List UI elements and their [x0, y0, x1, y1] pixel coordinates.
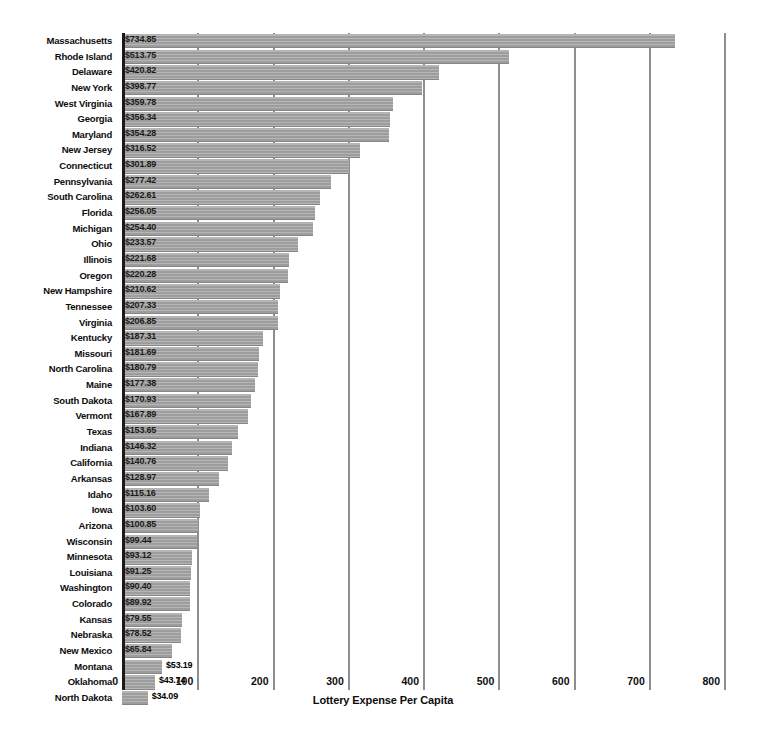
bar	[122, 34, 675, 48]
bar-row: $277.42	[122, 174, 724, 190]
category-label: Connecticut	[0, 158, 116, 174]
category-label: Minnesota	[0, 549, 116, 565]
bar-value-label: $180.79	[125, 361, 156, 374]
category-label: South Carolina	[0, 189, 116, 205]
category-label: Arizona	[0, 518, 116, 534]
bar-value-label: $734.85	[125, 33, 156, 46]
category-label: North Carolina	[0, 361, 116, 377]
axis-tick-label-100: 100	[176, 675, 198, 687]
bar-row: $207.33	[122, 299, 724, 315]
bar-value-label: $354.28	[125, 127, 156, 140]
bar-value-label: $65.84	[125, 643, 151, 656]
category-label: Florida	[0, 205, 116, 221]
bar-row: $177.38	[122, 377, 724, 393]
bar	[122, 112, 390, 126]
category-label: Wisconsin	[0, 534, 116, 550]
category-label: Rhode Island	[0, 49, 116, 65]
category-label: Georgia	[0, 111, 116, 127]
category-label: Delaware	[0, 64, 116, 80]
axis-tick-mark-100	[197, 673, 199, 690]
bar-row: $180.79	[122, 361, 724, 377]
bar-value-label: $233.57	[125, 236, 156, 249]
bar-row: $398.77	[122, 80, 724, 96]
axis-tick-mark-600	[574, 673, 576, 690]
bar-value-label: $78.52	[125, 627, 151, 640]
category-label: West Virginia	[0, 96, 116, 112]
category-label: Nebraska	[0, 627, 116, 643]
category-label: Tennessee	[0, 299, 116, 315]
bar-value-label: $128.97	[125, 471, 156, 484]
axis-tick-mark-0	[122, 673, 125, 690]
bar	[122, 143, 360, 157]
bar-value-label: $140.76	[125, 455, 156, 468]
bar-row: $79.55	[122, 612, 724, 628]
bar-row: $100.85	[122, 518, 724, 534]
x-axis-title: Lottery Expense Per Capita	[0, 694, 766, 706]
bar-value-label: $206.85	[125, 315, 156, 328]
category-label: Virginia	[0, 315, 116, 331]
category-label: Maine	[0, 377, 116, 393]
bar-value-label: $262.61	[125, 189, 156, 202]
bar-row: $206.85	[122, 315, 724, 331]
bar-value-label: $177.38	[125, 377, 156, 390]
axis-tick-label-300: 300	[326, 675, 348, 687]
bar-value-label: $316.52	[125, 142, 156, 155]
bar-value-label: $79.55	[125, 612, 151, 625]
bar-value-label: $359.78	[125, 96, 156, 109]
bar-value-label: $210.62	[125, 283, 156, 296]
bar-value-label: $103.60	[125, 502, 156, 515]
bar	[122, 50, 509, 64]
bar-value-label: $207.33	[125, 299, 156, 312]
bar-row: $262.61	[122, 189, 724, 205]
bar-row: $220.28	[122, 268, 724, 284]
category-label: New Mexico	[0, 643, 116, 659]
category-label: Pennsylvania	[0, 174, 116, 190]
category-label: Oregon	[0, 268, 116, 284]
bar-value-label: $187.31	[125, 330, 156, 343]
plot-area: $734.85$513.75$420.82$398.77$359.78$356.…	[122, 33, 724, 675]
category-label: Massachusetts	[0, 33, 116, 49]
axis-tick-label-0: 0	[112, 675, 122, 687]
category-label: Montana	[0, 659, 116, 675]
axis-tick-mark-800	[724, 673, 726, 690]
bar-row: $167.89	[122, 408, 724, 424]
category-label: Louisiana	[0, 565, 116, 581]
axis-tick-mark-400	[423, 673, 425, 690]
bar-value-label: $254.40	[125, 221, 156, 234]
bar-value-label: $356.34	[125, 111, 156, 124]
bar-row: $115.16	[122, 487, 724, 503]
bar-value-label: $91.25	[125, 565, 151, 578]
bar-row: $65.84	[122, 643, 724, 659]
category-axis-labels: MassachusettsRhode IslandDelawareNew Yor…	[0, 33, 116, 675]
category-label: California	[0, 455, 116, 471]
category-label: South Dakota	[0, 393, 116, 409]
bar-row: $316.52	[122, 142, 724, 158]
category-label: New Hampshire	[0, 283, 116, 299]
bar-row: $78.52	[122, 627, 724, 643]
axis-tick-label-500: 500	[477, 675, 499, 687]
bar-value-label: $420.82	[125, 64, 156, 77]
category-label: Ohio	[0, 236, 116, 252]
bar-value-label: $301.89	[125, 158, 156, 171]
bar-row: $187.31	[122, 330, 724, 346]
category-label: Vermont	[0, 408, 116, 424]
category-label: Indiana	[0, 440, 116, 456]
bar-row: $513.75	[122, 49, 724, 65]
bar	[122, 97, 393, 111]
gridline-800	[724, 33, 726, 675]
bar-row: $210.62	[122, 283, 724, 299]
bar-row: $233.57	[122, 236, 724, 252]
bar-row: $256.05	[122, 205, 724, 221]
category-label: Oklahoma	[0, 674, 116, 690]
category-label: Maryland	[0, 127, 116, 143]
axis-tick-label-200: 200	[251, 675, 273, 687]
bar-row: $170.93	[122, 393, 724, 409]
bar-row: $103.60	[122, 502, 724, 518]
category-label: New York	[0, 80, 116, 96]
bar-value-label: $221.68	[125, 252, 156, 265]
bar-row: $221.68	[122, 252, 724, 268]
bar-value-label: $513.75	[125, 49, 156, 62]
category-label: Illinois	[0, 252, 116, 268]
bar	[122, 128, 389, 142]
category-label: Arkansas	[0, 471, 116, 487]
